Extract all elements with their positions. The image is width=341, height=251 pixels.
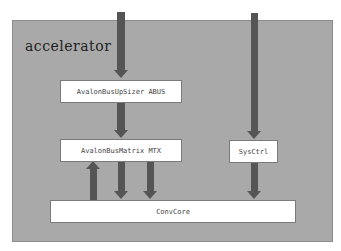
arrow-head-down-icon (114, 130, 128, 138)
block-abus: AvalonBusUpSizer ABUS (60, 80, 182, 103)
accelerator-label: accelerator (25, 38, 111, 54)
arrow-head-up-icon (86, 161, 100, 169)
arrow-head-down-icon (114, 191, 128, 199)
arrow-head-down-icon (143, 191, 157, 199)
arrow-external-to-abus (117, 12, 125, 70)
arrow-convcore-to-mtx (90, 169, 97, 201)
arrow-abus-to-mtx (117, 102, 125, 130)
arrow-external-to-sysctrl (251, 13, 258, 131)
arrow-mtx-to-convcore-1 (118, 161, 125, 191)
arrow-head-down-icon (247, 191, 261, 199)
arrow-head-down-icon (114, 70, 128, 78)
arrow-head-down-icon (247, 131, 261, 139)
block-sysctrl: SysCtrl (229, 140, 278, 163)
block-mtx: AvalonBusMatrix MTX (60, 139, 182, 162)
arrow-mtx-to-convcore-2 (147, 161, 154, 191)
arrow-sysctrl-to-convcore (251, 162, 258, 191)
block-convcore: ConvCore (50, 200, 296, 223)
